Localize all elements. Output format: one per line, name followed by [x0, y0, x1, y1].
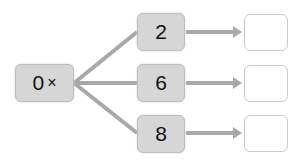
multiplier-box-3: 8: [137, 115, 185, 153]
arrowhead-icon: [233, 127, 242, 139]
answer-box-1[interactable]: [244, 14, 288, 51]
multiplier-box-1: 2: [137, 13, 185, 51]
source-value: 0: [32, 71, 44, 95]
arrowhead-icon: [233, 77, 242, 89]
branch-line-3: [74, 83, 137, 133]
multiplier-box-2: 6: [137, 64, 185, 102]
answer-box-2[interactable]: [244, 65, 288, 102]
multiplier-value: 8: [155, 122, 167, 146]
multiplier-value: 6: [155, 71, 167, 95]
answer-box-3[interactable]: [244, 115, 288, 152]
arrowhead-icon: [233, 26, 242, 38]
source-box: 0 ×: [15, 64, 74, 102]
multiply-operator: ×: [47, 74, 56, 92]
branch-line-1: [74, 32, 137, 83]
multiplier-value: 2: [155, 20, 167, 44]
